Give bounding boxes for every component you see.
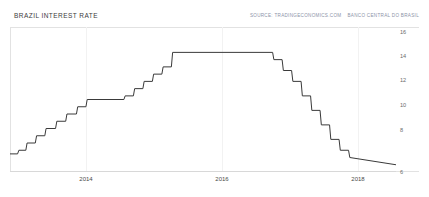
line-series-interest-rate xyxy=(10,52,396,164)
y-tick-16: 16 xyxy=(400,29,406,35)
series-canvas xyxy=(10,27,396,172)
x-tick-2014: 2014 xyxy=(79,176,92,182)
page-title: BRAZIL INTEREST RATE xyxy=(14,12,98,19)
y-tick-12: 12 xyxy=(400,77,406,83)
source-institution: BANCO CENTRAL DO BRASIL xyxy=(347,13,419,18)
source-attribution: SOURCE: TRADINGECONOMICS.COMBANCO CENTRA… xyxy=(250,13,419,18)
y-tick-8: 8 xyxy=(400,127,403,133)
plot-area xyxy=(10,27,396,172)
chart-screenshot: BRAZIL INTEREST RATE SOURCE: TRADINGECON… xyxy=(0,0,429,197)
x-tick-2016: 2016 xyxy=(215,176,228,182)
source-provider: SOURCE: TRADINGECONOMICS.COM xyxy=(250,13,342,18)
y-tick-6: 6 xyxy=(400,169,403,175)
x-tick-2018: 2018 xyxy=(351,176,364,182)
y-tick-10: 10 xyxy=(400,102,406,108)
y-tick-14: 14 xyxy=(400,53,406,59)
